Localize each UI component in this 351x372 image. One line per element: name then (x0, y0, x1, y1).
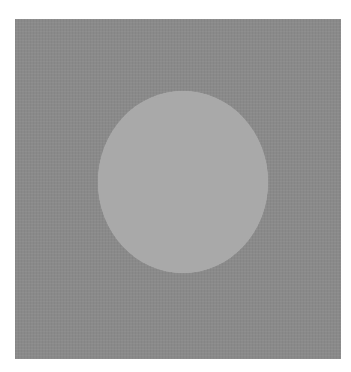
gray-circle (98, 91, 268, 273)
